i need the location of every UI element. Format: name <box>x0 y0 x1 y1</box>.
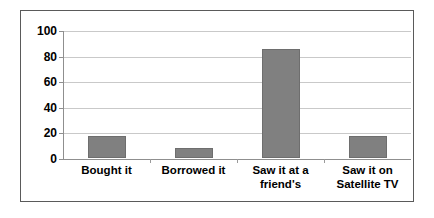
y-axis-tick-label: 60 <box>23 76 57 88</box>
bar[interactable] <box>262 49 300 158</box>
bar[interactable] <box>349 136 387 158</box>
y-axis-tick-labels: 020406080100 <box>21 31 57 159</box>
bar-slot <box>237 31 324 159</box>
y-axis-tick-label: 0 <box>23 153 57 165</box>
bar[interactable] <box>88 136 126 158</box>
x-axis-category-labels: Bought itBorrowed itSaw it at a friend's… <box>63 163 411 201</box>
bar-slot <box>63 31 150 159</box>
y-axis-tick-label: 40 <box>23 102 57 114</box>
plot-area <box>63 31 411 159</box>
y-axis-tick-label: 20 <box>23 127 57 139</box>
x-axis-category-label: Bought it <box>63 163 150 177</box>
x-axis-category-label: Saw it on Satellite TV <box>324 163 411 192</box>
bar[interactable] <box>175 148 213 158</box>
bar-slot <box>150 31 237 159</box>
y-axis-tick <box>59 159 64 160</box>
bar-slot <box>324 31 411 159</box>
chart-frame: 020406080100 Bought itBorrowed itSaw it … <box>20 10 414 202</box>
x-axis-category-label: Borrowed it <box>150 163 237 177</box>
y-axis-tick-label: 100 <box>23 25 57 37</box>
x-axis-category-label: Saw it at a friend's <box>237 163 324 192</box>
y-axis-tick-label: 80 <box>23 51 57 63</box>
